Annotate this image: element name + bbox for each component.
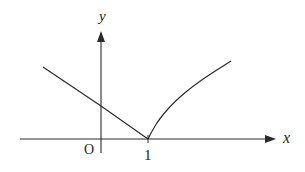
graph-canvas <box>0 0 305 172</box>
y-axis-arrowhead-icon <box>97 31 105 42</box>
function-graph-diagram: y x O 1 <box>0 0 305 172</box>
line-segment <box>43 67 148 139</box>
concave-curve <box>148 61 231 139</box>
x-axis-arrowhead-icon <box>265 135 276 143</box>
y-axis-label: y <box>99 9 106 24</box>
tick-label-1: 1 <box>144 148 152 163</box>
x-axis-label: x <box>283 130 290 146</box>
origin-label: O <box>84 143 94 157</box>
